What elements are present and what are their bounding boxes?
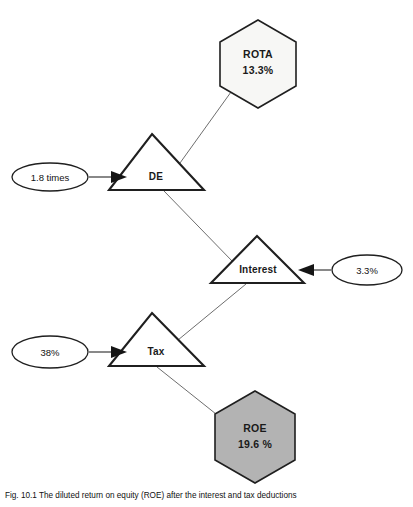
rota-title: ROTA: [243, 48, 273, 60]
figure-caption: Fig. 10.1 The diluted return on equity (…: [0, 491, 413, 507]
roe-title: ROE: [243, 422, 266, 434]
interest-label: Interest: [239, 264, 277, 275]
de-label: DE: [149, 171, 163, 182]
interest-input-arrow-head: [298, 264, 314, 276]
connector-interest-to-tax: [178, 284, 246, 340]
input-interest-rate[interactable]: 3.3%: [298, 255, 402, 285]
figure-caption-text: Fig. 10.1 The diluted return on equity (…: [5, 491, 410, 500]
node-interest[interactable]: Interest: [211, 236, 304, 283]
dupont-roe-diagram: ROTA 13.3% DE Interest Tax ROE 19.6 % 1.…: [0, 0, 413, 490]
connector-de-to-interest: [164, 191, 233, 262]
de-input-label: 1.8 times: [31, 172, 70, 183]
connector-rota-to-de: [180, 92, 231, 163]
connector-tax-to-roe: [157, 367, 216, 414]
tax-triangle-shape: [109, 313, 204, 366]
node-rota[interactable]: ROTA 13.3%: [220, 20, 296, 108]
node-tax[interactable]: Tax: [109, 313, 204, 366]
rota-value: 13.3%: [243, 64, 274, 76]
tax-input-label: 38%: [40, 347, 60, 358]
input-tax-rate[interactable]: 38%: [12, 336, 127, 368]
input-de-ratio[interactable]: 1.8 times: [12, 163, 127, 191]
roe-value: 19.6 %: [238, 438, 272, 450]
node-roe[interactable]: ROE 19.6 %: [215, 391, 295, 483]
node-de[interactable]: DE: [109, 134, 204, 190]
interest-triangle-shape: [211, 236, 304, 283]
figure-container: ROTA 13.3% DE Interest Tax ROE 19.6 % 1.…: [0, 0, 413, 507]
interest-input-label: 3.3%: [356, 265, 378, 276]
tax-label: Tax: [147, 346, 164, 357]
